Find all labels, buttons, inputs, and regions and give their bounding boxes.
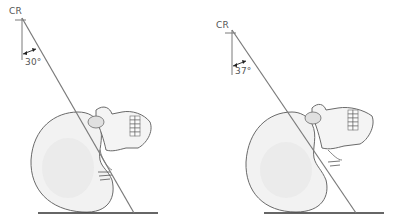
skull-diagram-left (0, 0, 198, 219)
arrowhead-icon (23, 51, 27, 55)
cr-label: CR (216, 20, 229, 30)
skull-icon (31, 107, 151, 212)
skull-icon (246, 104, 373, 212)
angle-label: 30° (25, 57, 42, 67)
panel-left-30deg: CR 30° (0, 0, 198, 219)
arrowhead-icon (242, 60, 246, 64)
skull-diagram-right (198, 0, 396, 219)
arrowhead-icon (32, 48, 36, 52)
panel-right-37deg: CR 37° (198, 0, 396, 219)
angle-label: 37° (235, 66, 252, 76)
cr-label: CR (9, 6, 22, 16)
